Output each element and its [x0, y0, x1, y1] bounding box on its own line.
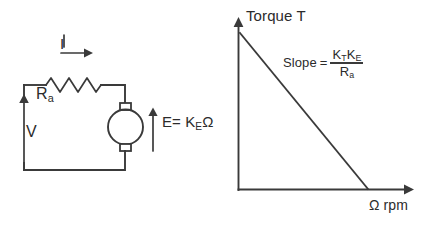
voltage-label-text: V: [26, 123, 37, 140]
resistor-symbol: [46, 78, 101, 92]
chart-y-axis-label-text: Torque T: [246, 7, 306, 24]
current-label-text: I: [60, 35, 64, 52]
voltage-label: V: [26, 124, 37, 140]
backemf-arrow: [148, 108, 157, 152]
slope-fraction-numerator: KTKE: [330, 48, 363, 62]
current-arrow-head: [84, 49, 93, 58]
motor-brush-bottom: [120, 144, 131, 151]
slope-annotation: Slope = KTKE Ra: [283, 48, 363, 78]
backemf-label-text: E= K: [162, 113, 195, 130]
ra-subscript: a: [349, 70, 354, 80]
backemf-arrow-head: [148, 108, 157, 117]
chart-x-axis-label: Ω rpm: [369, 198, 408, 212]
chart-group: [234, 17, 414, 194]
slope-annotation-equals: =: [320, 56, 328, 69]
chart-y-axis-label: Torque T: [246, 8, 306, 23]
ke-subscript: E: [355, 53, 361, 63]
chart-x-axis-label-text: Ω rpm: [369, 197, 408, 213]
ra-symbol: R: [340, 64, 350, 79]
backemf-label: E= KEΩ: [162, 114, 213, 129]
resistor-label-text: R: [36, 85, 48, 102]
motor-body-circle: [108, 110, 143, 145]
slope-fraction: KTKE Ra: [330, 48, 363, 78]
current-label: I: [60, 36, 64, 51]
backemf-label-omega: Ω: [202, 113, 213, 130]
wire-bottom: [24, 151, 125, 170]
slope-fraction-denominator: Ra: [338, 64, 356, 78]
voltage-arrow-head: [19, 94, 29, 103]
resistor-label-subscript: a: [48, 92, 54, 104]
slope-annotation-word: Slope: [283, 56, 317, 69]
circuit-group: [19, 35, 157, 170]
current-arrow: [61, 35, 93, 58]
backemf-label-subscript: E: [195, 121, 202, 132]
kt-subscript: T: [341, 53, 346, 63]
chart-x-axis-arrowhead: [404, 185, 414, 195]
chart-y-axis-arrowhead: [234, 17, 244, 27]
figure-root: I Ra V E= KEΩ Torque T Ω rpm Slope = KTK…: [0, 0, 428, 231]
kt-symbol: K: [332, 47, 341, 62]
wire-top-right: [101, 85, 125, 103]
resistor-label: Ra: [36, 86, 54, 102]
